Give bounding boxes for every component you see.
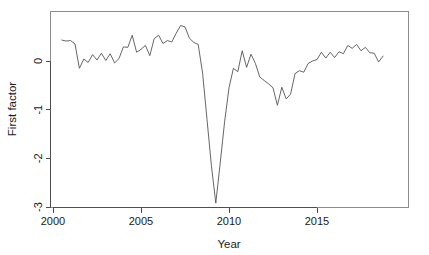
y-tick-label: -3 (32, 202, 44, 212)
chart-figure: 0-1-2-3 2000200520102015 Year First fact… (0, 0, 429, 255)
x-axis-title: Year (217, 238, 240, 250)
x-tick-label: 2000 (41, 215, 65, 227)
y-tick-label: -2 (32, 153, 44, 163)
x-tick-label: 2015 (305, 215, 329, 227)
line-chart-svg: 0-1-2-3 2000200520102015 Year First fact… (0, 0, 429, 255)
x-tick-label: 2010 (217, 215, 241, 227)
y-axis-title: First factor (6, 82, 18, 136)
y-tick-label: 0 (32, 58, 44, 64)
x-tick-label: 2005 (129, 215, 153, 227)
y-tick-label: -1 (32, 105, 44, 115)
